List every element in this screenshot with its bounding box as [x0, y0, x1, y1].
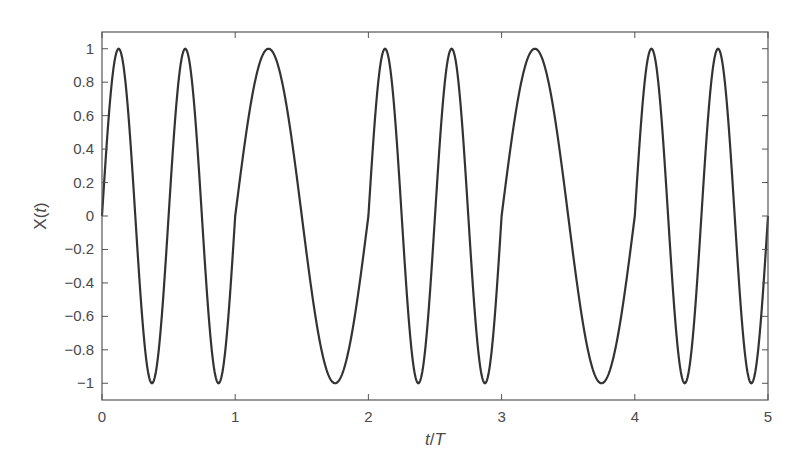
- x-tick-label: 3: [497, 408, 505, 425]
- y-tick-label: −0.2: [64, 240, 94, 257]
- y-tick-label: 0.6: [73, 107, 94, 124]
- y-tick-label: −0.4: [64, 274, 94, 291]
- x-axis-label: t/T: [425, 430, 446, 449]
- y-tick-label: 0.2: [73, 174, 94, 191]
- x-tick-label: 0: [98, 408, 106, 425]
- y-tick-label: 0: [86, 207, 94, 224]
- y-tick-label: 0.4: [73, 140, 94, 157]
- y-tick-label: 0.8: [73, 73, 94, 90]
- x-tick-label: 1: [231, 408, 239, 425]
- y-tick-label: −0.6: [64, 307, 94, 324]
- y-axis-label: X(t): [31, 202, 50, 229]
- y-tick-label: −0.8: [64, 341, 94, 358]
- x-tick-label: 4: [631, 408, 639, 425]
- y-tick-label: 1: [86, 40, 94, 57]
- chart-background: [0, 0, 799, 474]
- x-tick-label: 5: [764, 408, 772, 425]
- chart: 012345 10.80.60.40.20−0.2−0.4−0.6−0.8−1 …: [0, 0, 799, 474]
- y-tick-label: −1: [77, 374, 94, 391]
- x-tick-label: 2: [364, 408, 372, 425]
